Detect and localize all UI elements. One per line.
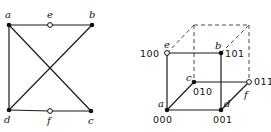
vertex-a-dot: [7, 23, 12, 28]
vertex-label-e: e: [47, 9, 53, 20]
vertex-label-b: b: [215, 40, 221, 51]
vertex-a-dot: [165, 108, 170, 113]
vertex-bits-a: 000: [153, 114, 173, 125]
left-graph: aebdfc: [4, 9, 95, 126]
vertex-label-c: c: [186, 72, 192, 83]
vertex-bits-c: 010: [193, 86, 213, 97]
vertex-e-dot: [165, 51, 170, 56]
vertex-label-d: d: [224, 98, 230, 109]
vertex-bits-f: 011: [254, 76, 271, 87]
vertex-bits-d: 001: [213, 114, 233, 125]
solid-edge-d-f: [9, 110, 50, 111]
vertex-b-dot: [90, 23, 95, 28]
solid-edge-a-c: [167, 82, 194, 110]
vertex-f-dot: [48, 109, 53, 114]
vertex-d-dot: [219, 108, 224, 113]
right-cube-graph: a000d001c010f011e100b101: [140, 25, 271, 125]
vertex-label-a: a: [5, 9, 11, 20]
vertex-c-dot: [89, 109, 94, 114]
vertex-label-c: c: [88, 115, 94, 126]
vertex-e-dot: [48, 23, 53, 28]
vertex-bits-e: 100: [140, 48, 160, 59]
vertex-label-d: d: [4, 114, 10, 125]
vertex-label-b: b: [89, 9, 95, 20]
vertex-label-e: e: [164, 39, 170, 50]
vertex-label-a: a: [158, 98, 164, 109]
diagram-canvas: aebdfc a000d001c010f011e100b101: [0, 0, 271, 132]
vertex-bits-b: 101: [225, 48, 245, 59]
vertex-label-f: f: [243, 89, 250, 100]
vertex-label-f: f: [46, 115, 53, 126]
vertex-f-dot: [247, 80, 252, 85]
vertex-d-dot: [7, 108, 12, 113]
vertex-c-dot: [192, 80, 197, 85]
dashed-edge-e-g: [167, 25, 194, 53]
vertex-b-dot: [219, 51, 224, 56]
